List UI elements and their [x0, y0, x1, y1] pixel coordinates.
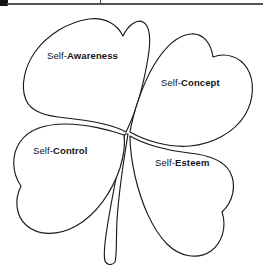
petal-label-term: Concept — [181, 77, 220, 88]
petal-label-term: Awareness — [67, 50, 118, 61]
petal-label-prefix: Self- — [47, 50, 67, 61]
petal-self-esteem — [130, 136, 233, 256]
petal-label-prefix: Self- — [155, 157, 175, 168]
header-tick-mark — [100, 0, 101, 5]
petal-label-term: Control — [53, 145, 87, 156]
petal-label-self-control: Self-Control — [33, 145, 88, 156]
petal-label-self-awareness: Self-Awareness — [47, 50, 118, 61]
petal-label-self-concept: Self-Concept — [161, 77, 220, 88]
clover-diagram — [0, 8, 263, 273]
petal-label-self-esteem: Self-Esteem — [155, 157, 209, 168]
figure-page: Self-Awareness Self-Concept Self-Control… — [0, 0, 263, 273]
clover-svg — [0, 8, 263, 273]
petal-label-term: Esteem — [175, 157, 209, 168]
petal-self-awareness — [23, 19, 149, 132]
petal-label-prefix: Self- — [161, 77, 181, 88]
petal-label-prefix: Self- — [33, 145, 53, 156]
header-rule — [7, 3, 263, 5]
petal-self-control — [14, 124, 125, 233]
